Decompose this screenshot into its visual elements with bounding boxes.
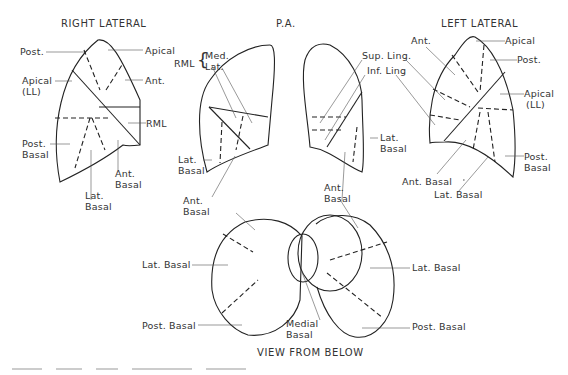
pa-l-ant-basal-label: Ant. <box>324 182 344 193</box>
ll-apical-label: Apical <box>505 35 535 46</box>
right-lateral-title: RIGHT LATERAL <box>61 18 147 29</box>
pa-r-ant-basal-label: Ant. <box>183 195 203 206</box>
vb-post-basal-left-label: Post. Basal <box>142 320 196 331</box>
pa-sup-ling-label: Sup. Ling. <box>362 50 411 61</box>
pa-r-lat-basal-label: Lat. <box>178 154 197 165</box>
pa-title: P.A. <box>276 18 296 29</box>
ll-post-basal-sub: Basal <box>524 162 551 173</box>
rl-apical-ll-sub: (LL) <box>22 86 41 97</box>
rl-post-label: Post. <box>20 46 44 57</box>
ll-lat-basal-label: Lat. Basal <box>434 189 483 200</box>
rl-ant-basal-sub: Basal <box>115 179 142 190</box>
pa-lat-label: Lat. <box>205 61 224 72</box>
ll-post-basal-label: Post. <box>524 151 548 162</box>
vb-lat-basal-left-label: Lat. Basal <box>142 259 191 270</box>
pa-l-lat-basal-label: Lat. <box>380 132 399 143</box>
rl-ant-label: Ant. <box>145 75 165 86</box>
vb-medial-basal-label: Medial <box>286 318 318 329</box>
view-from-below-title: VIEW FROM BELOW <box>257 347 364 358</box>
rl-apical-label: Apical <box>145 45 175 56</box>
left-lateral-lung <box>396 37 524 192</box>
rl-ant-basal-label: Ant. <box>115 168 135 179</box>
rl-post-basal-sub: Basal <box>22 149 49 160</box>
pa-rml-label: RML <box>174 58 195 69</box>
rl-post-basal-label: Post. <box>22 138 46 149</box>
lung-segments-diagram <box>0 0 568 375</box>
vb-medial-basal-sub: Basal <box>286 329 313 340</box>
vb-lat-basal-right-label: Lat. Basal <box>412 262 461 273</box>
rl-lat-basal-label: Lat. <box>85 190 104 201</box>
rl-rml-label: RML <box>146 118 167 129</box>
ll-post-label: Post. <box>517 54 541 65</box>
pa-r-lat-basal-sub: Basal <box>178 165 205 176</box>
pa-l-ant-basal-sub: Basal <box>324 193 351 204</box>
pa-med-label: Med. <box>205 50 229 61</box>
pa-r-ant-basal-sub: Basal <box>183 206 210 217</box>
left-lateral-title: LEFT LATERAL <box>441 18 518 29</box>
pa-l-lat-basal-sub: Basal <box>380 143 407 154</box>
rl-lat-basal-sub: Basal <box>85 201 112 212</box>
truncated-caption <box>0 368 300 374</box>
ll-apical-ll-sub: (LL) <box>526 99 545 110</box>
ll-ant-basal-label: Ant. Basal <box>402 176 452 187</box>
ll-apical-ll-label: Apical <box>524 88 554 99</box>
ll-ant-label: Ant. <box>411 35 431 46</box>
view-from-below <box>192 198 410 337</box>
rl-apical-ll-label: Apical <box>22 75 52 86</box>
vb-post-basal-right-label: Post. Basal <box>412 321 466 332</box>
pa-inf-ling-label: Inf. Ling <box>367 65 406 76</box>
